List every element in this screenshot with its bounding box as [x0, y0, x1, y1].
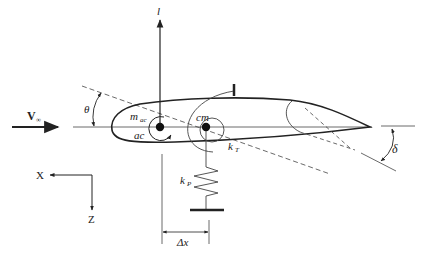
plunge-spring: [194, 131, 218, 210]
freestream-label: V: [27, 109, 36, 123]
delta-label: δ: [392, 142, 398, 156]
airfoil-diagram: V ∞ θ l m ac ac cm k T k P Δx δ X Z: [0, 0, 423, 256]
plunge-spring-subscript: P: [186, 180, 192, 188]
cm-label: cm: [196, 111, 209, 123]
freestream-subscript: ∞: [36, 116, 41, 124]
flap-deflected-dashed: [300, 108, 355, 150]
x-axis-label: X: [36, 169, 44, 181]
moment-subscript: ac: [140, 116, 148, 124]
aero-center-point: [156, 123, 164, 131]
torsion-spring-subscript: T: [235, 146, 240, 154]
ac-label: ac: [134, 129, 145, 141]
center-of-mass-point: [202, 123, 210, 131]
plunge-spring-label: k: [180, 174, 186, 186]
z-axis-label: Z: [88, 213, 95, 225]
moment-label: m: [130, 110, 138, 122]
theta-label: θ: [84, 103, 90, 115]
offset-label: Δx: [176, 236, 188, 248]
theta-arc: [93, 93, 101, 126]
lift-label: l: [157, 5, 160, 17]
airfoil-outline: [112, 98, 370, 142]
flap-ref-deflected: [361, 153, 396, 171]
torsion-spring-label: k: [228, 140, 234, 152]
